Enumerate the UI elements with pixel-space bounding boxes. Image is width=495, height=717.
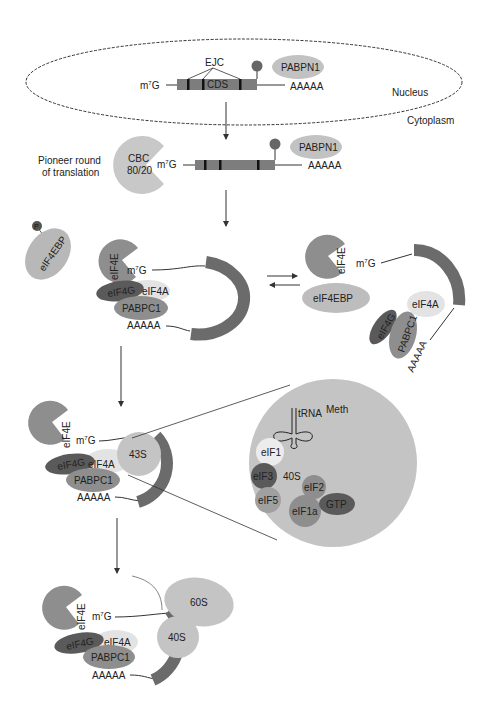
phosphorylated-eif4ebp: P eIF4EBP (16, 220, 81, 289)
pioneer-label-line1: Pioneer round (38, 155, 101, 166)
nascent-peptide (132, 576, 162, 610)
polya-tail: AAAAA (92, 670, 126, 681)
eif1a-label: eIF1a (292, 506, 318, 517)
pabpc1-label: PABPC1 (74, 475, 113, 486)
phosphate-label: P (34, 223, 39, 230)
stop-codon-marker (270, 139, 281, 150)
pabpn1-label: PABPN1 (299, 142, 338, 153)
preinitiation-complex-detail: tRNA Meth eIF1 eIF3 40S eIF5 eIF2 eIF1a … (249, 379, 417, 547)
eif4ebp-label: eIF4EBP (313, 293, 353, 304)
cap-m7g: m7G (356, 258, 376, 269)
43s-label: 43S (129, 449, 147, 460)
polya-tail: AAAAA (77, 492, 111, 503)
trna-label: tRNA (298, 408, 322, 419)
pabpc1-label: PABPC1 (91, 652, 130, 663)
eif4e-label: eIF4E (76, 603, 87, 630)
cap-m7g: m7G (76, 435, 96, 446)
ejc-mark (187, 79, 190, 90)
equilibrium-arrows (267, 276, 300, 285)
scanning-complex: eIF4E m7G eIF4G eIF4A PABPC1 AAAAA 43S (28, 401, 167, 503)
met-label: Meth (326, 404, 348, 415)
eif4e-label: eIF4E (61, 421, 72, 448)
pioneer-round: Pioneer round of translation CBC 80/20 m… (38, 135, 342, 194)
nuclear-mrna: m7G CDS EJC PABPN1 AAAAA (140, 55, 324, 92)
cap-m7g: m7G (127, 265, 147, 276)
cbc-subunits: 80/20 (127, 165, 152, 176)
ejc-label: EJC (205, 57, 224, 68)
cap-m7g: m7G (157, 159, 177, 170)
cap-m7g: m7G (92, 611, 112, 622)
polya-tail: AAAAA (290, 81, 324, 92)
40s-label: 40S (283, 471, 301, 482)
eif3-label: eIF3 (253, 471, 273, 482)
pabpc1-label: PABPC1 (122, 303, 161, 314)
eif1-label: eIF1 (261, 447, 281, 458)
ribosome-complex: eIF4E m7G eIF4G eIF4A PABPC1 AAAAA 60S 4… (42, 572, 238, 681)
pioneer-label-line2: of translation (42, 167, 99, 178)
repressed-complex: eIF4E m7G eIF4EBP eIF4A eIF4G PABPC1 AAA… (302, 235, 459, 374)
polya-tail: AAAAA (127, 320, 161, 331)
cap-m7g: m7G (140, 80, 160, 91)
eif4e-label: eIF4E (109, 253, 120, 280)
mrna-loop (191, 262, 244, 334)
nucleus-label: Nucleus (392, 87, 428, 98)
ejc-mark (239, 79, 242, 90)
eif5-label: eIF5 (258, 495, 278, 506)
eif4a-label: eIF4A (142, 286, 169, 297)
cytoplasm-label: Cytoplasm (407, 115, 454, 126)
gtp-label: GTP (326, 499, 347, 510)
cds-label: CDS (207, 79, 228, 90)
closed-loop-complex: eIF4E m7G eIF4G eIF4A PABPC1 AAAAA (51, 200, 244, 334)
cbc-label: CBC (128, 153, 149, 164)
pabpn1-label: PABPN1 (281, 62, 320, 73)
polya-tail: AAAAA (308, 160, 342, 171)
40s-label: 40S (168, 632, 186, 643)
60s-label: 60S (190, 597, 208, 608)
ejc-mark (202, 79, 205, 90)
eif4a-label: eIF4A (412, 299, 439, 310)
eif4e-label: eIF4E (336, 247, 347, 274)
eif2-label: eIF2 (304, 482, 324, 493)
translation-initiation-diagram: Nucleus Cytoplasm m7G CDS EJC PABPN1 AAA… (0, 0, 495, 717)
stop-codon-marker (252, 61, 263, 72)
mrna-body (195, 160, 275, 170)
